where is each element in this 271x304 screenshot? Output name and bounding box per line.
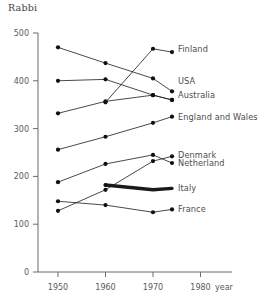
data-point-denmark	[151, 121, 155, 125]
data-point-france	[151, 210, 155, 214]
x-tick-label-1970: 1970	[143, 283, 163, 292]
series-path-usa	[58, 47, 172, 91]
line-chart-plot: 500 400 300 200 100 0 1950 1960 1970 198…	[0, 0, 271, 304]
series-label-france: France	[178, 204, 206, 214]
y-tick-label-300: 300	[14, 125, 29, 134]
data-point-australia	[103, 77, 107, 81]
data-point-netherland	[56, 180, 60, 184]
data-point-australia	[56, 79, 60, 83]
data-point-netherland-rise	[103, 188, 107, 192]
data-point-usa	[170, 89, 174, 93]
chart-container: Rabbi 500 400 300 200 100 0 1950 1960 19…	[0, 0, 271, 304]
series-label-usa: USA	[178, 76, 195, 86]
data-point-england-and-wales	[56, 111, 60, 115]
data-point-england-and-wales	[170, 98, 174, 102]
data-point-netherland-rise	[170, 154, 174, 158]
data-point-france	[56, 199, 60, 203]
series-layer	[56, 45, 174, 214]
data-point-denmark	[170, 115, 174, 119]
data-point-netherland-rise	[151, 159, 155, 163]
series-path-netherland	[58, 155, 172, 182]
y-tick-label-100: 100	[14, 220, 29, 229]
data-point-usa	[103, 61, 107, 65]
series-path-australia	[58, 79, 172, 100]
series-path-italy	[106, 185, 173, 190]
data-point-netherland	[103, 162, 107, 166]
series-path-france	[58, 201, 172, 212]
series-label-england-and-wales: England and Wales	[178, 112, 258, 122]
y-tick-label-400: 400	[14, 77, 29, 86]
data-point-usa	[56, 45, 60, 49]
data-point-finland	[151, 47, 155, 51]
series-label-finland: Finland	[178, 44, 208, 54]
data-point-finland	[170, 50, 174, 54]
series-label-italy: Italy	[178, 183, 196, 193]
data-point-netherland-rise	[56, 209, 60, 213]
series-path-finland	[106, 49, 173, 103]
data-point-france	[103, 203, 107, 207]
data-point-england-and-wales	[151, 93, 155, 97]
x-tick-label-1980: 1980	[190, 283, 210, 292]
series-path-england-and-wales	[58, 95, 172, 113]
data-point-netherland	[170, 161, 174, 165]
data-point-netherland	[151, 153, 155, 157]
data-point-england-and-wales	[103, 99, 107, 103]
data-point-france	[170, 207, 174, 211]
y-tick-label-200: 200	[14, 172, 29, 181]
data-point-italy	[103, 183, 107, 187]
series-label-netherland: Netherland	[178, 158, 225, 168]
data-point-denmark	[103, 135, 107, 139]
data-point-usa	[151, 76, 155, 80]
x-axis-unit-label: year	[215, 283, 234, 292]
y-tick-label-500: 500	[14, 29, 29, 38]
x-tick-label-1960: 1960	[95, 283, 115, 292]
x-tick-label-1950: 1950	[48, 283, 68, 292]
y-tick-label-0: 0	[24, 268, 29, 277]
data-point-denmark	[56, 148, 60, 152]
series-path-denmark	[58, 117, 172, 150]
series-label-australia: Australia	[178, 90, 215, 100]
